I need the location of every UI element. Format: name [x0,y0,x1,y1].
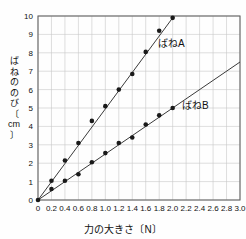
x-axis-title: 力の大きさ〔N〕 [0,221,246,236]
data-point-spring-b [63,178,68,183]
x-tick-label: 0.6 [73,204,85,213]
data-point-spring-b [157,113,162,118]
y-tick-label: 2 [29,159,34,168]
y-tick-label: 7 [29,67,34,76]
x-tick-label: 0.8 [86,204,98,213]
x-tick-label: 2.2 [181,204,193,213]
data-point-spring-a [170,16,175,21]
data-point-spring-b [130,135,135,140]
x-tick-label: 2.8 [221,204,233,213]
y-axis-title: ば ね の の び 〔 cm 〕 [6,56,22,140]
x-tick-label: 1.0 [100,204,112,213]
y-axis-title-char: の [6,88,22,99]
y-tick-label: 4 [29,122,34,131]
data-point-spring-a [90,119,95,124]
x-tick-label: 2.0 [167,204,179,213]
gridlines [38,16,240,200]
series-label-spring-a: ばねA [158,35,185,50]
x-tick-label: 0.2 [46,204,58,213]
y-tick-label: 9 [29,30,34,39]
x-tick-label: 1.2 [113,204,125,213]
data-point-spring-b [143,122,148,127]
chart-plot-area: 00.20.40.60.81.01.21.41.61.82.02.22.42.6… [0,0,246,239]
x-tick-label: 3.0 [234,204,246,213]
data-point-spring-b [103,151,108,156]
data-point-spring-a [63,158,68,163]
x-tick-label: 0 [36,204,41,213]
data-point-spring-b [117,141,122,146]
data-point-spring-b [170,106,175,111]
x-tick-label: 1.4 [127,204,139,213]
data-point-spring-a [76,141,81,146]
y-tick-label: 10 [24,12,33,21]
y-tick-label: 0 [29,196,34,205]
data-point-spring-a [103,104,108,109]
y-axis-tick-labels: 012345678910 [24,12,33,205]
x-tick-label: 2.6 [208,204,220,213]
y-axis-title-char: cm [6,119,22,130]
data-point-spring-b [76,172,81,177]
x-tick-label: 1.8 [154,204,166,213]
data-series [36,16,240,203]
y-axis-title-char: 〔 [6,109,22,120]
data-point-spring-a [157,28,162,33]
series-label-spring-b: ばねB [182,97,209,112]
data-point-spring-a [49,178,54,183]
data-point-origin [36,198,41,203]
x-tick-label: 2.4 [194,204,206,213]
y-tick-label: 3 [29,141,34,150]
y-axis-title-char: ね [6,67,22,78]
data-point-spring-a [117,87,122,92]
y-axis-title-char: の [6,77,22,88]
spring-extension-chart: 00.20.40.60.81.01.21.41.61.82.02.22.42.6… [0,0,246,239]
y-tick-label: 8 [29,49,34,58]
x-axis-tick-labels: 00.20.40.60.81.01.21.41.61.82.02.22.42.6… [36,204,246,213]
series-line-spring-b [38,62,240,200]
y-tick-label: 1 [29,178,34,187]
x-tick-label: 0.4 [59,204,71,213]
data-point-spring-a [130,72,135,77]
y-axis-title-char: ば [6,56,22,67]
y-axis-title-char: 〕 [6,130,22,141]
y-tick-label: 5 [29,104,34,113]
y-axis-title-char: び [6,98,22,109]
data-point-spring-b [49,187,54,192]
y-tick-label: 6 [29,86,34,95]
data-point-spring-a [143,50,148,55]
data-point-spring-b [90,160,95,165]
x-tick-label: 1.6 [140,204,152,213]
